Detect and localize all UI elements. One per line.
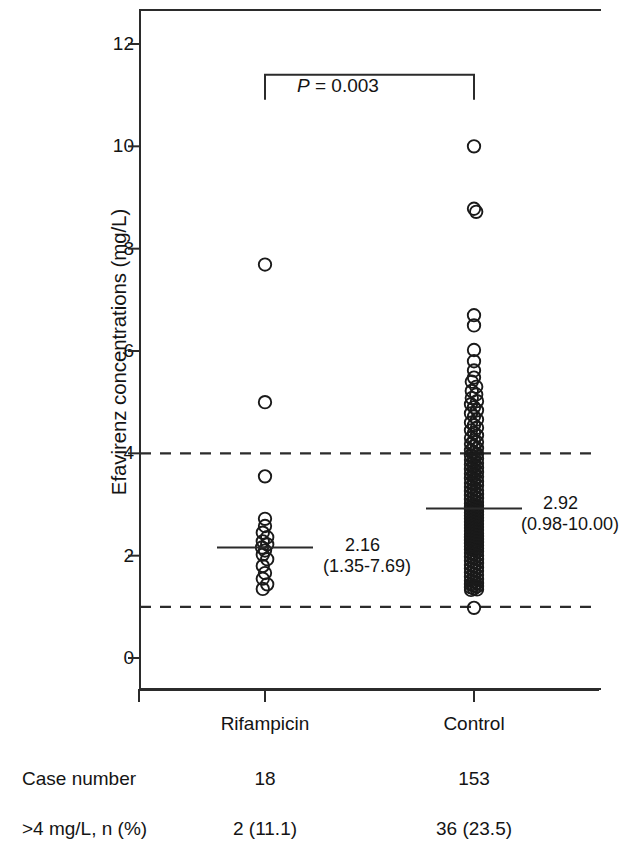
x-axis-label-control: Control bbox=[443, 713, 504, 735]
table-row: Case number18153 bbox=[0, 768, 599, 818]
x-axis-label-rifampicin: Rifampicin bbox=[221, 713, 310, 735]
control-summary-annotation: 2.92 (0.98-10.00) bbox=[521, 493, 619, 535]
y-axis-tick-label-0: 0 bbox=[100, 647, 134, 669]
table-cell: 153 bbox=[458, 768, 490, 790]
y-axis-tick-label-12: 12 bbox=[100, 33, 134, 55]
table-cell: 36 (23.5) bbox=[436, 818, 512, 840]
y-axis-tick-label-4: 4 bbox=[100, 442, 134, 464]
p-value-annotation: P = 0.003 bbox=[297, 75, 379, 97]
rifampicin-summary-annotation: 2.16 (1.35-7.69) bbox=[323, 535, 411, 577]
table-row: >4 mg/L, n (%)2 (11.1)36 (23.5) bbox=[0, 818, 599, 855]
table-row-label: >4 mg/L, n (%) bbox=[22, 818, 147, 840]
rifampicin-range-value: (1.35-7.69) bbox=[323, 556, 411, 577]
table-cell: 18 bbox=[254, 768, 275, 790]
y-axis-tick-label-10: 10 bbox=[100, 135, 134, 157]
table-cell: 2 (11.1) bbox=[233, 818, 297, 840]
control-median-value: 2.92 bbox=[521, 493, 619, 514]
y-axis-tick-label-2: 2 bbox=[100, 545, 134, 567]
table-row-label: Case number bbox=[22, 768, 136, 790]
y-axis-tick-labels: 121086420 bbox=[94, 0, 134, 700]
y-axis-tick-label-8: 8 bbox=[100, 238, 134, 260]
p-value-number: = 0.003 bbox=[310, 75, 379, 96]
y-axis-tick-label-6: 6 bbox=[100, 340, 134, 362]
p-value-variable: P bbox=[297, 75, 310, 96]
summary-stats-table: Case number18153>4 mg/L, n (%)2 (11.1)36… bbox=[0, 768, 599, 855]
rifampicin-median-value: 2.16 bbox=[323, 535, 411, 556]
control-range-value: (0.98-10.00) bbox=[521, 514, 619, 535]
plot-frame bbox=[139, 9, 601, 690]
